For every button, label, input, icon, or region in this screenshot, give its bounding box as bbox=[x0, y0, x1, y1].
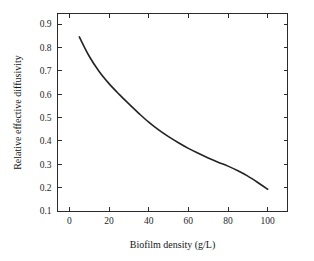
y-tick-label: 0.1 bbox=[40, 206, 52, 216]
data-series-curve bbox=[79, 37, 267, 189]
x-tick-label: 0 bbox=[67, 216, 72, 226]
y-tick-label: 0.3 bbox=[40, 160, 52, 170]
y-tick-label: 0.8 bbox=[40, 43, 52, 53]
y-tick-label: 0.6 bbox=[40, 90, 52, 100]
y-tick-label: 0.2 bbox=[40, 183, 52, 193]
x-axis-ticks-top bbox=[69, 14, 267, 18]
y-axis-ticks-right bbox=[284, 24, 288, 211]
x-tick-label: 100 bbox=[261, 216, 276, 226]
x-axis-ticks bbox=[69, 207, 267, 211]
x-axis-tick-labels: 020406080100 bbox=[67, 216, 275, 226]
x-axis-title: Biofilm density (g/L) bbox=[130, 239, 216, 251]
y-tick-label: 0.7 bbox=[40, 66, 52, 76]
y-tick-label: 0.9 bbox=[40, 19, 52, 29]
y-axis-tick-labels: 0.10.20.30.40.50.60.70.80.9 bbox=[40, 19, 52, 216]
y-tick-label: 0.5 bbox=[40, 113, 52, 123]
plot-frame bbox=[58, 14, 288, 212]
chart-figure: 020406080100 0.10.20.30.40.50.60.70.80.9… bbox=[0, 0, 314, 261]
line-chart: 020406080100 0.10.20.30.40.50.60.70.80.9… bbox=[0, 0, 314, 261]
y-tick-label: 0.4 bbox=[40, 136, 52, 146]
x-tick-label: 40 bbox=[144, 216, 154, 226]
x-tick-label: 20 bbox=[104, 216, 114, 226]
x-tick-label: 60 bbox=[184, 216, 194, 226]
y-axis-title: Relative effective diffusivity bbox=[12, 55, 23, 170]
y-axis-ticks bbox=[58, 24, 62, 211]
x-tick-label: 80 bbox=[223, 216, 233, 226]
